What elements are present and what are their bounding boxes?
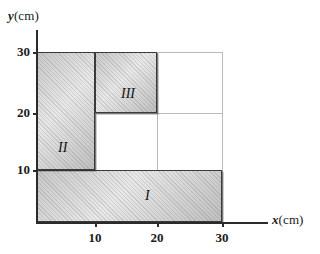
y-tick-label-30: 30 <box>6 44 30 60</box>
y-tick-label-10: 10 <box>6 162 30 178</box>
x-tick-mark-10 <box>95 222 97 227</box>
gridline-x-30 <box>222 52 223 222</box>
y-tick-label-20: 20 <box>6 105 30 121</box>
x-tick-label-30: 30 <box>209 230 235 246</box>
region-I <box>37 170 222 222</box>
y-axis-title: y(cm) <box>8 8 39 24</box>
x-tick-mark-30 <box>222 222 224 227</box>
region-I-label: I <box>145 188 150 204</box>
x-tick-label-20: 20 <box>144 230 170 246</box>
x-tick-mark-20 <box>157 222 159 227</box>
x-axis-line <box>36 222 268 224</box>
y-tick-mark-30 <box>33 52 38 54</box>
y-axis-title-unit: (cm) <box>14 8 39 23</box>
x-axis-title: x(cm) <box>272 212 304 228</box>
region-III-label: III <box>121 86 135 102</box>
region-II-label: II <box>58 140 67 156</box>
x-axis-title-variable: x <box>272 212 279 227</box>
y-tick-mark-20 <box>33 113 38 115</box>
x-tick-label-10: 10 <box>82 230 108 246</box>
x-axis-title-unit: (cm) <box>279 212 304 227</box>
y-axis-line <box>36 30 38 224</box>
region-III <box>95 52 157 113</box>
figure-canvas: I II III 30 20 10 10 20 30 y(cm) x(cm) <box>0 0 320 254</box>
y-tick-mark-10 <box>33 170 38 172</box>
